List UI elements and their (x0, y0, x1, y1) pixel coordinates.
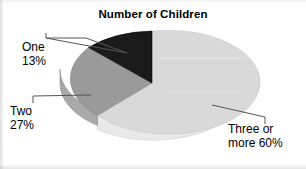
slice-label-three-or-more: Three or more 60% (228, 122, 283, 150)
pie-chart-figure: Number of Children One 13% Two (0, 0, 306, 169)
slice-label-one: One 13% (22, 40, 46, 68)
slice-label-three-or-more-name: Three or (228, 122, 283, 136)
slice-label-two-name: Two (10, 104, 34, 118)
slice-label-one-name: One (22, 40, 46, 54)
slice-label-one-value: 13% (22, 54, 46, 68)
slice-label-two-value: 27% (10, 118, 34, 132)
slice-label-two: Two 27% (10, 104, 34, 132)
slice-label-three-or-more-value: more 60% (228, 136, 283, 150)
